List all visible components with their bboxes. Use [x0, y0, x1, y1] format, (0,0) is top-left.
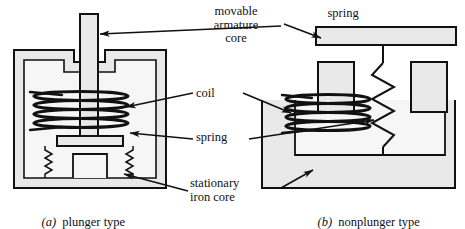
label-movable-armature-core: movable armature core — [193, 5, 279, 46]
plunger-flange-a — [57, 136, 123, 146]
core-leg-right-b — [411, 62, 447, 112]
caption-a-label: plunger type — [62, 215, 125, 229]
caption-b-letter: (b) — [318, 215, 333, 229]
label-coil: coil — [196, 87, 240, 101]
solenoid-figure: movable armature core spring coil spring… — [0, 0, 465, 229]
label-spring-top: spring — [311, 7, 375, 21]
movable-armature-bar-b — [316, 27, 456, 45]
diagram-b-nonplunger-type — [262, 27, 456, 188]
label-stationary-iron-core: stationary iron core — [190, 177, 276, 204]
caption-a-letter: (a) — [42, 215, 57, 229]
movable-plunger-armature-a — [80, 14, 98, 140]
diagram-a-plunger-type — [14, 14, 166, 188]
caption-a: (a) plunger type — [29, 200, 125, 229]
center-pedestal-a — [73, 154, 107, 178]
caption-b-label: nonplunger type — [338, 215, 420, 229]
label-spring-middle: spring — [196, 131, 246, 145]
caption-b: (b) nonplunger type — [305, 200, 420, 229]
